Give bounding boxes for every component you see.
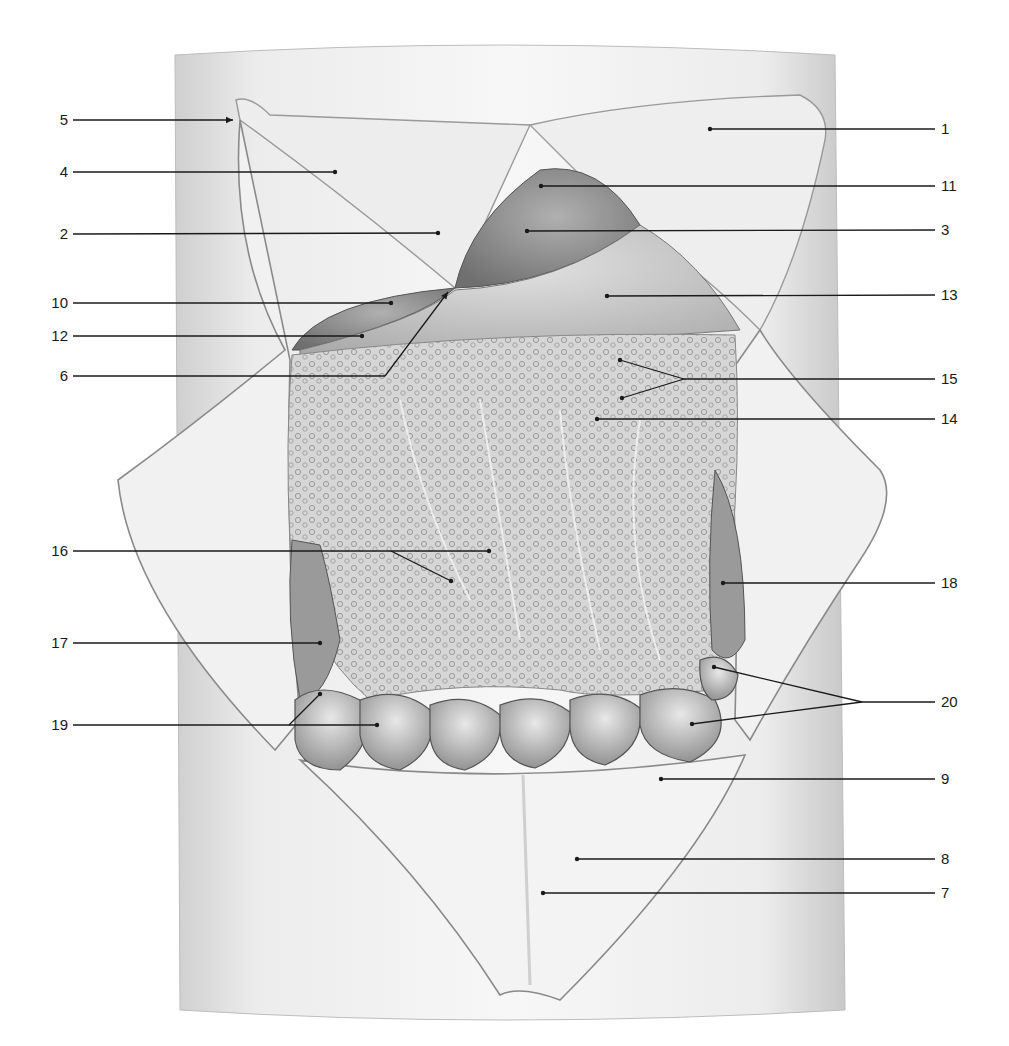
leader-dot xyxy=(712,665,716,669)
leader-dot xyxy=(605,294,609,298)
label-20: 20 xyxy=(941,693,958,710)
leader-dot xyxy=(690,722,694,726)
leader-dot xyxy=(318,641,322,645)
greater-omentum xyxy=(288,334,738,700)
leader-dot xyxy=(318,692,322,696)
label-1: 1 xyxy=(941,120,949,137)
label-4: 4 xyxy=(60,163,68,180)
label-14: 14 xyxy=(941,410,958,427)
leader-dot xyxy=(449,579,453,583)
leader-dot xyxy=(575,857,579,861)
leader-dot xyxy=(389,301,393,305)
label-9: 9 xyxy=(941,770,949,787)
label-6: 6 xyxy=(60,367,68,384)
label-13: 13 xyxy=(941,286,958,303)
abdominal-anatomy-figure: 5421012616171911131315141820987 xyxy=(0,0,1009,1046)
label-18: 18 xyxy=(941,574,958,591)
leader-dot xyxy=(708,127,712,131)
label-12: 12 xyxy=(51,327,68,344)
label-8: 8 xyxy=(941,850,949,867)
leader-dot xyxy=(525,229,529,233)
leader-dot xyxy=(360,334,364,338)
label-16: 16 xyxy=(51,542,68,559)
leader-dot xyxy=(659,777,663,781)
leader-dot xyxy=(618,358,622,362)
label-3: 3 xyxy=(941,221,949,238)
leader-dot xyxy=(721,581,725,585)
leader-dot xyxy=(539,184,543,188)
label-17: 17 xyxy=(51,634,68,651)
leader-dot xyxy=(487,549,491,553)
leader-dot xyxy=(541,891,545,895)
leader-dot xyxy=(436,231,440,235)
label-11: 11 xyxy=(941,177,957,194)
leader-dot xyxy=(620,396,624,400)
label-10: 10 xyxy=(51,294,68,311)
label-7: 7 xyxy=(941,884,949,901)
label-2: 2 xyxy=(60,225,68,242)
label-19: 19 xyxy=(51,716,68,733)
leader-dot xyxy=(333,170,337,174)
label-5: 5 xyxy=(60,111,68,128)
label-15: 15 xyxy=(941,370,958,387)
leader-dot xyxy=(375,723,379,727)
leader-dot xyxy=(595,417,599,421)
